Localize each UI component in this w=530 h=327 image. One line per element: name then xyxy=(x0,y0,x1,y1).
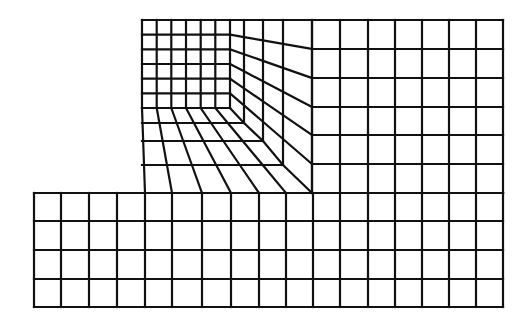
fine-grid-mesh xyxy=(142,20,230,108)
left-edge-band xyxy=(142,108,145,193)
transition-ring-mesh xyxy=(142,20,312,193)
fan-row-line xyxy=(230,79,312,135)
fan-col-line xyxy=(171,108,202,193)
lower-block-mesh xyxy=(34,193,503,307)
corner-diagonal xyxy=(230,108,312,193)
fan-row-line xyxy=(230,49,312,78)
fan-row-line xyxy=(230,35,312,49)
fan-row-line xyxy=(230,93,312,164)
fan-col-line xyxy=(157,108,172,193)
fe-mesh-figure xyxy=(0,0,530,327)
fan-row-line xyxy=(230,64,312,107)
coarse-right-mesh xyxy=(312,20,503,193)
